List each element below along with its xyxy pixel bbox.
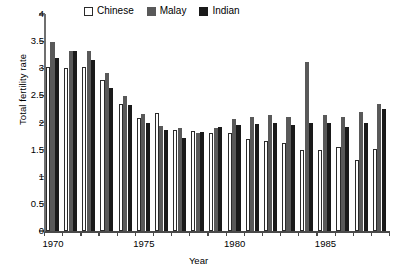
bar-group: [80, 14, 98, 231]
x-tick-mark: [117, 232, 118, 236]
bar-indian-1988: [382, 109, 386, 231]
bar-indian-1973: [109, 88, 113, 231]
x-tick-mark: [207, 232, 208, 236]
x-tick-mark: [80, 232, 81, 236]
bar-group: [207, 14, 225, 231]
bar-indian-1974: [128, 105, 132, 231]
bar-indian-1987: [364, 123, 368, 231]
bar-group: [153, 14, 171, 231]
x-tick-mark: [262, 232, 263, 236]
bar-indian-1979: [218, 127, 222, 231]
bar-indian-1976: [164, 130, 168, 231]
x-tick-label: 1975: [124, 239, 164, 249]
bar-group: [44, 14, 62, 231]
bar-indian-1980: [236, 125, 240, 231]
x-tick-mark: [153, 232, 154, 236]
y-tick-label: 0: [6, 226, 44, 236]
bar-group: [244, 14, 262, 231]
x-axis-title: Year: [0, 255, 397, 266]
x-tick-mark: [335, 232, 336, 236]
y-tick-label: 2.5: [6, 90, 44, 100]
x-tick-label: 1980: [215, 239, 255, 249]
bar-indian-1983: [291, 125, 295, 231]
bar-indian-1981: [255, 124, 259, 231]
x-tick-mark: [44, 232, 45, 236]
bar-group: [135, 14, 153, 231]
x-tick-mark: [62, 232, 63, 236]
bar-group: [189, 14, 207, 231]
bar-group: [171, 14, 189, 231]
bar-group: [353, 14, 371, 231]
bar-group: [298, 14, 316, 231]
bar-indian-1978: [200, 132, 204, 231]
y-tick-label: 3.5: [6, 36, 44, 46]
bar-indian-1985: [327, 123, 331, 231]
y-tick-label: 0.5: [6, 199, 44, 209]
x-tick-mark: [298, 232, 299, 236]
x-tick-mark: [98, 232, 99, 236]
x-tick-mark: [371, 232, 372, 236]
x-tick-mark: [353, 232, 354, 236]
bar-group: [280, 14, 298, 231]
bar-indian-1982: [273, 123, 277, 231]
bar-group: [316, 14, 334, 231]
x-tick-label: 1985: [305, 239, 345, 249]
bar-indian-1986: [345, 127, 349, 231]
chart-figure: Total fertility rate Chinese Malay India…: [0, 0, 397, 270]
bar-indian-1977: [182, 138, 186, 231]
x-tick-label: 1970: [33, 239, 73, 249]
bar-group: [117, 14, 135, 231]
x-tick-mark: [189, 232, 190, 236]
y-tick-label: 1: [6, 172, 44, 182]
y-tick-label: 1.5: [6, 145, 44, 155]
x-tick-mark: [280, 232, 281, 236]
bar-indian-1971: [73, 51, 77, 231]
x-tick-mark: [389, 232, 390, 236]
y-tick-label: 2: [6, 118, 44, 128]
x-axis-line: [44, 231, 390, 233]
y-tick-label: 3: [6, 63, 44, 73]
bar-indian-1970: [55, 58, 59, 231]
bar-indian-1984: [309, 123, 313, 231]
bar-group: [335, 14, 353, 231]
bar-group: [62, 14, 80, 231]
x-tick-mark: [316, 232, 317, 236]
x-tick-mark: [171, 232, 172, 236]
bar-indian-1972: [91, 60, 95, 231]
bar-group: [262, 14, 280, 231]
bar-group: [371, 14, 389, 231]
plot-area: [44, 14, 389, 231]
bar-group: [226, 14, 244, 231]
x-tick-mark: [135, 232, 136, 236]
bar-group: [98, 14, 116, 231]
x-tick-mark: [244, 232, 245, 236]
y-tick-label: 4: [6, 9, 44, 19]
x-tick-mark: [226, 232, 227, 236]
bar-indian-1975: [146, 123, 150, 231]
